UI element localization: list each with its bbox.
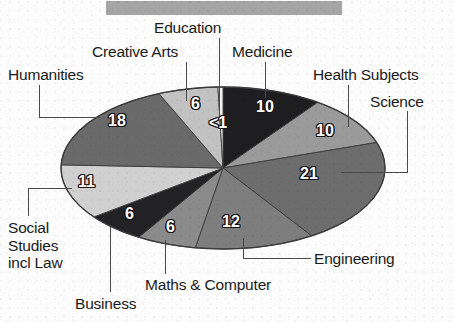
redacted-title-bar — [106, 1, 342, 15]
callout-label-engineering: Engineering — [314, 250, 395, 267]
leader-line-creative-arts — [186, 62, 187, 101]
leader-line-medicine — [265, 62, 266, 98]
leader-line-maths-computer — [165, 240, 166, 274]
social-studies-line-3: incl Law — [8, 254, 62, 271]
slice-value-education: <1 — [209, 114, 227, 132]
callout-label-humanities: Humanities — [8, 66, 84, 83]
leader-line-science-arm — [341, 172, 408, 173]
leader-line-science-stem — [407, 111, 408, 172]
slice-value-health-subjects: 10 — [316, 122, 334, 140]
leader-line-health-subjects — [348, 85, 349, 127]
leader-line-humanities-arm — [39, 117, 100, 118]
leader-line-social-studies-arm — [28, 188, 72, 189]
leader-line-social-studies-stem — [28, 188, 29, 216]
callout-label-medicine: Medicine — [232, 43, 292, 60]
pie-chart-screenshot: 21 12 6 6 11 18 6 <1 10 10 Education Cre… — [0, 0, 455, 322]
leader-line-business — [110, 225, 111, 292]
slice-value-medicine: 10 — [256, 98, 274, 116]
leader-line-humanities-stem — [39, 85, 40, 117]
slice-value-maths-computer: 6 — [166, 218, 175, 236]
slice-value-business: 6 — [125, 205, 134, 223]
callout-label-creative-arts: Creative Arts — [92, 43, 178, 60]
leader-line-education — [219, 38, 220, 114]
callout-label-social-studies: Social Studies incl Law — [8, 219, 100, 272]
callout-label-business: Business — [75, 295, 136, 312]
social-studies-line-2: Studies — [8, 237, 58, 254]
slice-value-social-studies: 11 — [78, 173, 95, 191]
social-studies-line-1: Social — [8, 219, 49, 236]
leader-line-engineering-stem — [243, 238, 244, 258]
slice-value-science: 21 — [300, 165, 318, 183]
callout-label-health-subjects: Health Subjects — [313, 66, 419, 83]
callout-label-science: Science — [370, 93, 424, 110]
slice-value-humanities: 18 — [108, 112, 126, 130]
slice-value-engineering: 12 — [222, 213, 240, 231]
slice-value-creative-arts: 6 — [191, 95, 200, 113]
leader-line-engineering-arm — [243, 258, 311, 259]
callout-label-education: Education — [154, 19, 221, 36]
callout-label-maths-computer: Maths & Computer — [145, 276, 271, 293]
